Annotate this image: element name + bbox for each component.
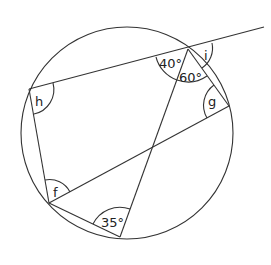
label-angle-f: f [53, 185, 58, 200]
label-angle-i: i [204, 48, 208, 63]
circle [21, 27, 233, 239]
label-angle-40: 40° [159, 56, 182, 71]
chord-b-a [120, 49, 188, 237]
chord-f-g [49, 106, 229, 203]
label-angle-60: 60° [179, 70, 202, 85]
circle-angle-diagram: 40° 60° i g h f 35° [0, 0, 271, 265]
label-angle-35: 35° [101, 215, 124, 230]
label-angle-h: h [35, 94, 43, 109]
label-angle-g: g [208, 94, 216, 109]
line-h-a-extended [29, 27, 264, 89]
